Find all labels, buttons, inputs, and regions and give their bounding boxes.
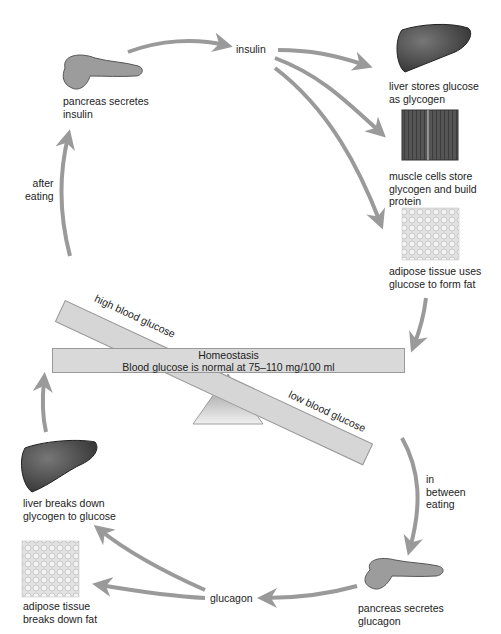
liver-icon [21,440,96,492]
arrow-glucagon-to-adipose [100,585,205,598]
arrow-in-between-eating [402,438,418,548]
homeostasis-subtext: Blood glucose is normal at 75–110 mg/100… [53,362,404,374]
arrow-insulin-to-adipose [275,68,380,222]
liver-stores-label: liver stores glucose as glycogen [389,80,479,105]
liver-icon [397,24,471,72]
homeostasis-heading: Homeostasis [53,350,404,362]
adipose-uses-label: adipose tissue uses glucose to form fat [389,265,481,290]
adipose-breaks-label: adipose tissue breaks down fat [23,600,97,625]
muscle-icon [402,110,458,160]
arrow-glucagon-to-liver [100,530,205,590]
arrow-after-eating [62,137,71,256]
arrow-to-beam-left [43,380,46,432]
in-between-eating-label: in between eating [426,473,466,511]
glucagon-label: glucagon [210,592,253,605]
homeostasis-beam: Homeostasis Blood glucose is normal at 7… [52,348,405,373]
arrow-pancreas-to-insulin [128,41,225,52]
adipose-icon [402,208,459,260]
pancreas-glucagon-label: pancreas secretes glucagon [358,602,444,627]
muscle-label: muscle cells store glycogen and build pr… [389,170,477,208]
after-eating-label: after eating [25,177,54,202]
pancreas-icon [63,55,142,89]
pancreas-icon [365,558,443,589]
arrow-to-beam-right [414,298,426,345]
adipose-icon [22,541,79,597]
pancreas-insulin-label: pancreas secretes insulin [63,95,149,120]
liver-breaks-label: liver breaks down glycogen to glucose [23,497,116,522]
insulin-label: insulin [236,43,266,56]
arrow-pancreas-to-glucagon [265,586,357,598]
